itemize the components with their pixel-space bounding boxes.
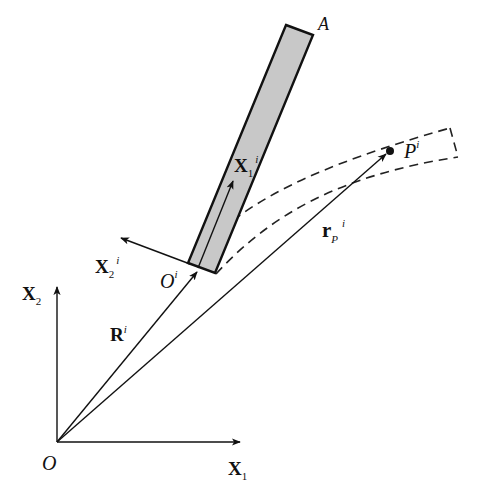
label-local-x2: X2i [95,254,119,280]
label-point-vector-rP: rPi [322,217,345,245]
label-body-end-A: A [317,14,330,34]
label-position-vector-R: Ri [110,323,127,345]
label-point-P: Pi [403,138,419,162]
deformed-path-end-cap [450,128,458,157]
label-global-x2: X2 [22,283,41,307]
local-x2-axis-arrow-icon [121,238,190,264]
label-global-x1: X1 [228,458,247,482]
position-vector-R-arrow-icon [57,272,197,442]
rigid-body-rod [188,25,313,273]
label-local-origin: Oi [160,268,178,292]
point-marker-icon [386,147,394,155]
label-origin: O [42,452,56,474]
kinematics-diagram: O X1 X2 A Oi X1i X2i Ri rPi Pi [0,0,477,501]
